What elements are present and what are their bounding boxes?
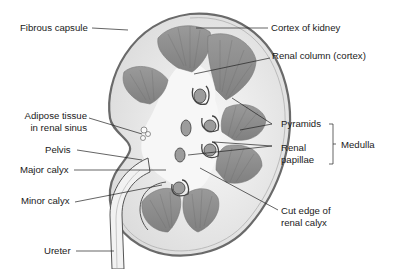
- label-ureter: Ureter: [44, 245, 71, 256]
- label-major-calyx: Major calyx: [20, 164, 69, 175]
- label-cut-edge-line1: Cut edge of: [281, 205, 331, 216]
- papilla: [181, 120, 191, 136]
- label-fibrous-capsule: Fibrous capsule: [20, 22, 88, 33]
- label-pelvis: Pelvis: [45, 144, 71, 155]
- kidney-diagram: [0, 0, 393, 269]
- label-renal-papillae-line2: papillae: [281, 154, 314, 165]
- label-renal-column: Renal column (cortex): [272, 50, 366, 61]
- label-medulla: Medulla: [341, 139, 375, 150]
- label-adipose-line1: Adipose tissue: [20, 110, 87, 121]
- label-cortex-of-kidney: Cortex of kidney: [271, 22, 340, 33]
- papilla: [204, 144, 216, 156]
- label-pyramids: Pyramids: [281, 118, 321, 129]
- papilla: [173, 182, 185, 194]
- label-minor-calyx: Minor calyx: [21, 195, 70, 206]
- papilla: [175, 148, 185, 162]
- label-adipose-line2: in renal sinus: [20, 122, 87, 133]
- label-cut-edge-line2: renal calyx: [281, 217, 327, 228]
- label-renal-papillae-line1: Renal: [281, 142, 306, 153]
